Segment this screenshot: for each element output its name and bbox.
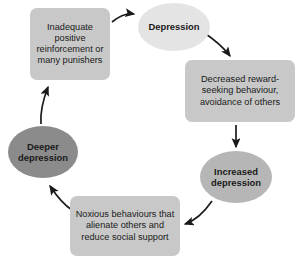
node-decreased-reward-seeking[interactable]: Decreased reward-seeking behaviour, avoi… (185, 60, 295, 122)
node-noxious-behaviours[interactable]: Noxious behaviours that alienate others … (70, 196, 180, 256)
edge-inadequate-to-depression (112, 14, 134, 22)
node-increased-depression[interactable]: Increased depression (200, 151, 272, 203)
edge-deeper-to-inadequate (41, 87, 48, 124)
node-label: Depression (148, 21, 199, 32)
node-label: Decreased reward-seeking behaviour, avoi… (190, 74, 290, 108)
node-label: Increased depression (200, 166, 272, 189)
diagram-canvas: Inadequate positive reinforcement or man… (0, 0, 306, 268)
node-deeper-depression[interactable]: Deeper depression (8, 126, 78, 178)
edge-increased-to-noxious (185, 201, 212, 224)
node-depression[interactable]: Depression (138, 3, 210, 51)
node-label: Deeper depression (8, 141, 78, 164)
edge-noxious-to-deeper (50, 186, 72, 210)
node-label: Inadequate positive reinforcement or man… (35, 22, 105, 67)
node-label: Noxious behaviours that alienate others … (75, 209, 175, 243)
node-inadequate-positive-reinforcement[interactable]: Inadequate positive reinforcement or man… (30, 8, 110, 80)
